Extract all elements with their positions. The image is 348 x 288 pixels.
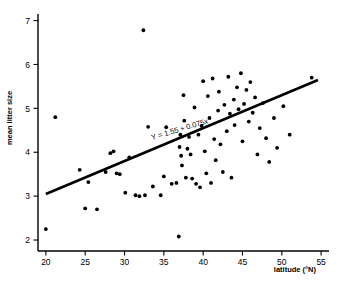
data-point	[198, 185, 202, 189]
y-tick-label: 4	[25, 147, 30, 157]
data-point	[219, 142, 223, 146]
data-point	[186, 147, 190, 151]
data-point	[178, 145, 182, 149]
data-point	[264, 136, 268, 140]
y-axis-title: mean litter size	[5, 91, 14, 145]
data-point	[242, 102, 246, 106]
data-point	[193, 106, 197, 110]
data-point	[177, 235, 181, 239]
data-point	[118, 172, 122, 176]
data-point	[180, 164, 184, 168]
fit-line	[46, 80, 318, 194]
data-point	[143, 193, 147, 197]
x-tick-label: 40	[198, 257, 208, 267]
x-tick-label: 45	[238, 257, 248, 267]
data-point	[112, 149, 116, 153]
data-point	[194, 182, 198, 186]
data-point	[204, 171, 208, 175]
data-point	[206, 94, 210, 98]
x-tick-label: 35	[159, 257, 169, 267]
data-point	[44, 227, 48, 231]
data-point	[241, 139, 245, 143]
x-tick-label: 55	[316, 257, 326, 267]
data-point	[272, 116, 276, 120]
data-point	[190, 177, 194, 181]
data-point	[225, 129, 229, 133]
data-point	[151, 185, 155, 189]
data-point	[138, 194, 142, 198]
x-tick-label: 25	[80, 257, 90, 267]
data-point	[256, 153, 260, 157]
data-point	[179, 154, 183, 158]
data-point	[288, 133, 292, 137]
data-point	[235, 85, 239, 89]
scatter-plot-figure: 2345672025303540455055 Y = 1.55 + 0.075x…	[0, 0, 348, 288]
data-point	[267, 160, 271, 164]
data-point	[247, 120, 251, 124]
data-point	[258, 126, 262, 130]
data-point	[86, 180, 90, 184]
data-point	[175, 181, 179, 185]
y-tick-label: 2	[25, 235, 30, 245]
y-tick-label: 7	[25, 16, 30, 26]
data-point	[162, 174, 166, 178]
data-point	[226, 75, 230, 79]
data-point	[251, 111, 255, 115]
regression-line	[46, 80, 318, 194]
data-point	[239, 71, 243, 75]
data-point	[233, 123, 237, 127]
data-point	[211, 77, 215, 81]
data-point	[208, 116, 212, 120]
data-point	[248, 80, 252, 84]
data-point	[281, 104, 285, 108]
data-point	[189, 153, 193, 157]
data-point	[253, 95, 257, 99]
data-point	[159, 193, 163, 197]
data-point	[203, 149, 207, 153]
data-point	[134, 193, 138, 197]
data-point	[78, 168, 82, 172]
data-point	[221, 170, 225, 174]
data-point	[123, 191, 127, 195]
data-point	[182, 93, 186, 97]
data-point	[212, 137, 216, 141]
data-point	[232, 98, 236, 102]
data-point	[223, 103, 227, 107]
data-point	[217, 90, 221, 94]
y-tick-label: 6	[25, 60, 30, 70]
data-point	[83, 207, 87, 211]
data-point	[197, 133, 201, 137]
plot-canvas: 2345672025303540455055 Y = 1.55 + 0.075x…	[0, 0, 348, 288]
data-point	[53, 115, 57, 119]
x-axis-title: latitude (°N)	[274, 265, 317, 274]
data-point	[214, 158, 218, 162]
data-point	[146, 125, 150, 129]
data-point	[310, 76, 314, 80]
tick-labels: 2345672025303540455055	[25, 16, 326, 267]
data-point	[275, 146, 279, 150]
data-point	[245, 88, 249, 92]
y-tick-label: 5	[25, 104, 30, 114]
y-tick-label: 3	[25, 191, 30, 201]
data-point	[237, 107, 241, 111]
data-point	[184, 176, 188, 180]
data-point	[95, 207, 99, 211]
data-point	[230, 176, 234, 180]
data-point	[216, 109, 220, 113]
x-tick-label: 20	[41, 257, 51, 267]
x-tick-label: 30	[120, 257, 130, 267]
data-point	[209, 181, 213, 185]
data-point	[141, 28, 145, 32]
data-point	[170, 182, 174, 186]
data-point	[201, 79, 205, 83]
